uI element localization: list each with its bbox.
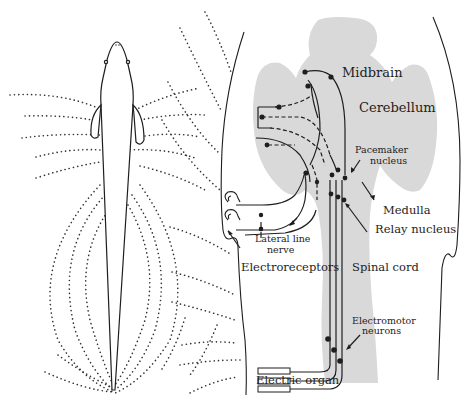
label-midbrain: Midbrain	[342, 66, 403, 79]
label-lateral-line-line2: nerve	[267, 245, 294, 255]
label-electric-organ: Electric organ	[256, 375, 339, 387]
label-electromotor-line2: neurons	[362, 326, 401, 336]
label-lateral-line-line1: Lateral line	[255, 234, 311, 244]
label-cerebellum: Cerebellum	[359, 101, 436, 114]
diagram-artwork	[0, 0, 468, 403]
label-spinal-cord: Spinal cord	[352, 262, 419, 274]
label-pacemaker-line1: Pacemaker	[355, 145, 408, 155]
label-relay-nucleus: Relay nucleus	[375, 224, 456, 236]
label-medulla: Medulla	[383, 205, 431, 217]
label-electroreceptors: Electroreceptors	[241, 262, 339, 274]
fish-body	[91, 42, 144, 390]
label-pacemaker-line2: nucleus	[370, 156, 407, 166]
diagram-canvas: Midbrain Cerebellum Pacemaker nucleus Me…	[0, 0, 468, 403]
